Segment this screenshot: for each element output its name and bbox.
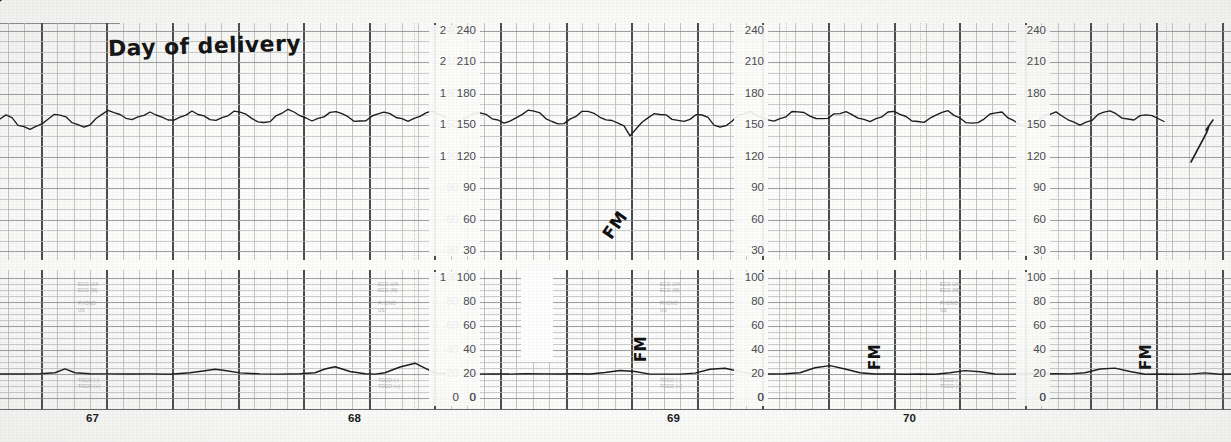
channel-label: US [78,308,99,314]
fhr-axis-tick: 180 [446,87,476,99]
fhr-axis-tick: 30 [734,244,764,256]
toco-channel-legend-lower: TOCO (-)TOCO (+) [940,378,962,390]
fhr-axis-tick: 240 [1016,24,1046,36]
annotation-overlay: 2402101801501209060302402101801501209060… [0,0,1231,442]
toco-axis-tick: 20 [446,367,476,379]
toco-channel-legend-lower: TOCO (-)TOCO (+) [378,378,400,390]
channel-label: TOCO (+) [940,384,962,390]
toco-channel-legend-upper: ECG U/AECG (M)PHONOUS [378,282,399,314]
toco-axis-tick: 40 [1016,343,1046,355]
toco-axis-tick: 80 [1016,295,1046,307]
handwritten-scribble-mark: FM [598,207,631,243]
toco-axis-tick: 40 [446,343,476,355]
fhr-axis-tick: 90 [734,181,764,193]
fhr-axis-tick: 150 [734,118,764,130]
toco-channel-legend-upper: ECG U/AECG (M)PHONOUS [78,282,99,314]
scribble-strike [0,0,19,2]
toco-axis-band [1016,272,1050,406]
fhr-axis-tick: 90 [446,181,476,193]
fhr-axis-tick: 60 [734,213,764,225]
fhr-axis-tick: 90 [1016,181,1046,193]
toco-channel-legend-lower: TOCO (-)TOCO (+) [660,378,682,390]
channel-label: TOCO (+) [660,384,682,390]
fhr-axis-tick: 180 [734,87,764,99]
toco-axis-tick: 100 [734,271,764,283]
toco-axis-tick: 100 [446,271,476,283]
toco-axis-tick: 40 [734,343,764,355]
toco-axis-tick: 80 [446,295,476,307]
fhr-axis-tick: 60 [1016,213,1046,225]
time-marker: 67 [86,412,99,424]
channel-label: ECG (M) [940,288,961,294]
fhr-axis-tick: 150 [446,118,476,130]
handwritten-fm-mark: FM [1137,344,1155,370]
channel-label: US [378,308,399,314]
channel-label: ECG (M) [378,288,399,294]
toco-channel-legend-upper: ECG U/AECG (M)PHONOUS [660,282,681,314]
fhr-axis-tick: 120 [1016,150,1046,162]
fhr-axis-tick: 210 [446,55,476,67]
toco-axis-tick: 60 [446,319,476,331]
fhr-axis-tick: 210 [734,55,764,67]
handwritten-fm-mark: FM [866,344,884,370]
fhr-axis-tick: 210 [1016,55,1046,67]
fhr-axis-tick: 120 [446,150,476,162]
toco-axis-tick: 60 [1016,319,1046,331]
time-marker: 68 [348,412,361,424]
pen-stroke-artifact [1185,112,1225,167]
channel-label: US [940,308,961,314]
toco-axis-tick: 60 [734,319,764,331]
fhr-axis-tick: 60 [446,213,476,225]
toco-zero-label: 0 [446,391,476,403]
toco-zero-label: 0 [734,391,764,403]
toco-channel-legend-lower: TOCO (-)TOCO (+) [78,378,100,390]
fhr-axis-tick: 30 [1016,244,1046,256]
fhr-axis-tick: 150 [1016,118,1046,130]
fhr-axis-tick: 30 [446,244,476,256]
ctg-paper-strip: 2402101801501209060302402101801501209060… [0,0,1231,442]
channel-label: TOCO (+) [78,384,100,390]
fhr-axis-tick: 240 [446,24,476,36]
toco-axis-tick: 80 [734,295,764,307]
channel-label: TOCO (+) [378,384,400,390]
fhr-axis-tick: 120 [734,150,764,162]
channel-label: ECG (M) [78,288,99,294]
fhr-axis-tick: 240 [734,24,764,36]
toco-axis-tick: 20 [1016,367,1046,379]
toco-axis-band [734,272,768,406]
toco-channel-legend-upper: ECG U/AECG (M)PHONOUS [940,282,961,314]
fhr-axis-tick: 180 [1016,87,1046,99]
toco-axis-band [446,272,480,406]
toco-axis-tick: 100 [1016,271,1046,283]
toco-zero-label: 0 [1016,391,1046,403]
time-marker: 69 [667,412,680,424]
handwritten-fm-mark: FM [632,336,650,362]
toco-axis-tick: 20 [734,367,764,379]
channel-label: ECG (M) [660,288,681,294]
time-marker: 70 [903,412,916,424]
channel-label: US [660,308,681,314]
